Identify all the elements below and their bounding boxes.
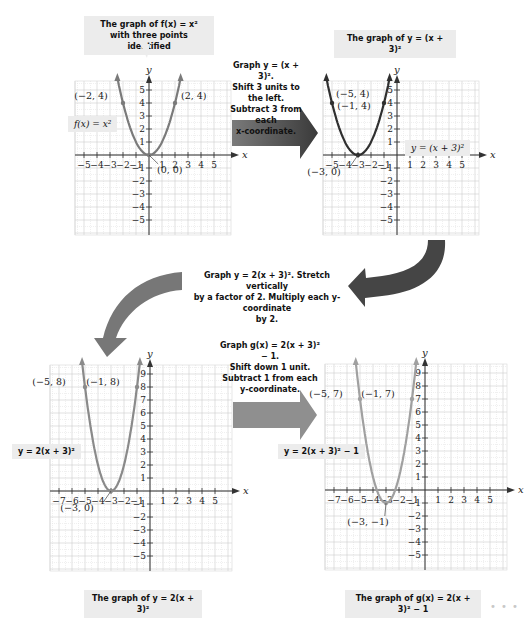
svg-text:7: 7 <box>415 394 421 404</box>
svg-text:(−3, 0): (−3, 0) <box>307 166 341 177</box>
svg-text:5: 5 <box>212 496 218 506</box>
step1-line3: Subtract 3 from each <box>228 104 304 126</box>
curved-arrow-icon-step2 <box>348 240 445 307</box>
curved-arrow-icon-step3 <box>94 272 182 357</box>
svg-text:−4: −4 <box>380 202 394 212</box>
svg-text:(−1, 4): (−1, 4) <box>337 100 371 111</box>
svg-text:−4: −4 <box>366 495 380 505</box>
svg-text:−2: −2 <box>364 160 377 170</box>
svg-text:1: 1 <box>407 160 413 170</box>
svg-text:(−3, 0): (−3, 0) <box>60 502 94 513</box>
svg-text:2: 2 <box>415 459 421 469</box>
step3-line4: y-coordinate. <box>216 384 324 395</box>
step2-line1: Graph y = 2(x + 3)². Stretch vertically <box>182 270 352 292</box>
svg-text:2: 2 <box>387 124 393 134</box>
svg-text:−5: −5 <box>380 215 394 225</box>
graph1-equation-label: f(x) = x² <box>68 116 117 132</box>
graph1-caption: The graph of f(x) = x² with three points… <box>84 16 214 55</box>
svg-text:−6: −6 <box>340 495 354 505</box>
graph-f-x-squared: xy−5−4−3−2−11234554321−1−2−3−4−5(−2, 4)(… <box>74 64 248 235</box>
svg-text:−2: −2 <box>392 495 405 505</box>
svg-text:x: x <box>518 484 524 495</box>
svg-text:−3: −3 <box>103 160 117 170</box>
svg-text:2: 2 <box>173 496 179 506</box>
step3-instructions: Graph g(x) = 2(x + 3)² − 1. Shift down 1… <box>216 340 324 395</box>
svg-text:4: 4 <box>387 98 393 108</box>
svg-text:5: 5 <box>487 495 493 505</box>
svg-text:2: 2 <box>140 460 146 470</box>
svg-text:−2: −2 <box>116 160 129 170</box>
graph3-caption-text: The graph of y = 2(x + 3)² <box>92 594 194 614</box>
svg-text:y: y <box>145 64 152 75</box>
svg-text:3: 3 <box>185 160 191 170</box>
svg-text:x: x <box>490 149 496 160</box>
svg-text:3: 3 <box>186 496 192 506</box>
graph4-equation-label: y = 2(x + 3)² − 1 <box>278 444 365 459</box>
svg-text:4: 4 <box>139 98 145 108</box>
svg-text:−3: −3 <box>408 524 422 534</box>
svg-text:y: y <box>421 347 428 358</box>
svg-text:−1: −1 <box>408 498 421 508</box>
svg-text:5: 5 <box>139 85 145 95</box>
svg-text:x: x <box>243 485 249 496</box>
svg-text:2: 2 <box>420 160 426 170</box>
svg-text:9: 9 <box>140 369 146 379</box>
svg-text:8: 8 <box>140 382 146 392</box>
graph2-equation-label: y = (x + 3)² <box>405 140 470 156</box>
svg-text:−5: −5 <box>133 551 147 561</box>
svg-text:−3: −3 <box>133 525 147 535</box>
step1-line4: x-coordinate. <box>228 126 304 137</box>
svg-text:5: 5 <box>211 160 217 170</box>
svg-text:−4: −4 <box>132 202 146 212</box>
graph2-caption: The graph of y = (x + 3)² <box>334 30 456 58</box>
graph3-caption: The graph of y = 2(x + 3)² <box>84 590 202 618</box>
svg-text:−4: −4 <box>90 160 104 170</box>
step1-line1: Graph y = (x + 3)². <box>228 60 304 82</box>
svg-text:x: x <box>242 149 248 160</box>
svg-text:(−1, 7): (−1, 7) <box>361 388 395 399</box>
graph3-equation-label: y = 2(x + 3)² <box>12 444 81 459</box>
svg-text:1: 1 <box>140 473 146 483</box>
svg-text:4: 4 <box>140 434 146 444</box>
svg-text:y: y <box>393 64 400 75</box>
svg-text:5: 5 <box>140 421 146 431</box>
svg-text:5: 5 <box>415 420 421 430</box>
svg-text:4: 4 <box>446 160 452 170</box>
step2-line3: by 2. <box>182 314 352 325</box>
step3-line2: Shift down 1 unit. <box>216 362 324 373</box>
svg-text:5: 5 <box>459 160 465 170</box>
svg-text:−2: −2 <box>132 176 145 186</box>
step2-instructions: Graph y = 2(x + 3)². Stretch vertically … <box>182 270 352 325</box>
arrow-right-icon-step4 <box>233 390 317 440</box>
svg-text:3: 3 <box>140 447 146 457</box>
svg-text:(−2, 4): (−2, 4) <box>74 90 108 101</box>
svg-text:3: 3 <box>139 111 145 121</box>
svg-text:1: 1 <box>160 496 166 506</box>
svg-text:−1: −1 <box>380 163 393 173</box>
graph2-caption-text: The graph of y = (x + 3)² <box>347 34 443 54</box>
svg-text:−3: −3 <box>380 189 394 199</box>
svg-text:(−3, −1): (−3, −1) <box>347 516 388 527</box>
svg-text:(−1, 8): (−1, 8) <box>86 376 120 387</box>
svg-text:−2: −2 <box>133 512 146 522</box>
svg-text:2: 2 <box>139 124 145 134</box>
svg-text:3: 3 <box>433 160 439 170</box>
svg-text:1: 1 <box>415 472 421 482</box>
graph1-caption-line2: with three points identified <box>90 30 208 52</box>
svg-text:−5: −5 <box>353 495 367 505</box>
svg-text:−1: −1 <box>133 499 146 509</box>
svg-text:4: 4 <box>198 160 204 170</box>
svg-text:−1: −1 <box>132 163 145 173</box>
svg-text:6: 6 <box>415 407 421 417</box>
svg-text:3: 3 <box>461 495 467 505</box>
more-options-dots[interactable]: • • • <box>490 601 519 612</box>
svg-text:(2, 4): (2, 4) <box>181 90 207 101</box>
svg-text:4: 4 <box>199 496 205 506</box>
step1-line2: Shift 3 units to the left. <box>228 82 304 104</box>
svg-text:−4: −4 <box>133 538 147 548</box>
graph1-caption-line1: The graph of f(x) = x² <box>90 19 208 30</box>
graph4-caption-text: The graph of g(x) = 2(x + 3)² − 1 <box>356 594 471 614</box>
svg-text:−4: −4 <box>408 537 422 547</box>
svg-text:−2: −2 <box>380 176 393 186</box>
step3-line1: Graph g(x) = 2(x + 3)² − 1. <box>216 340 324 362</box>
